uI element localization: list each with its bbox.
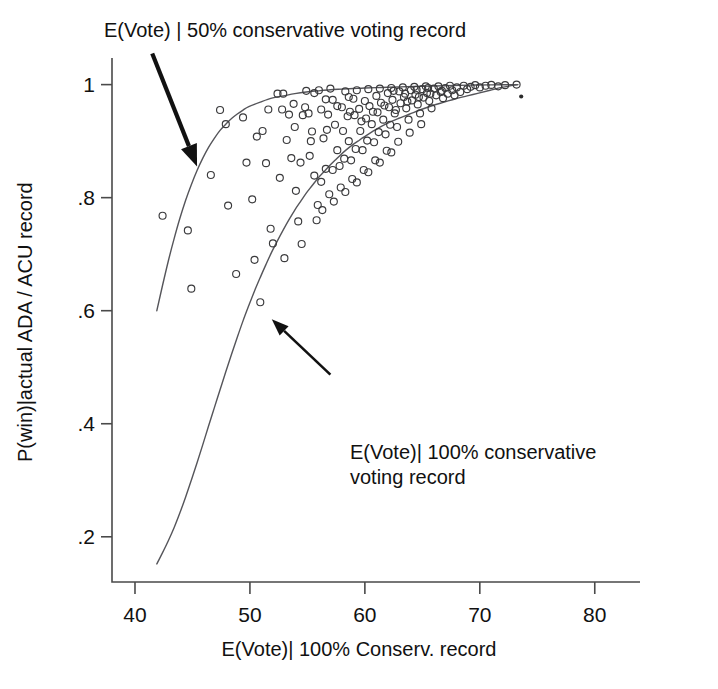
data-point-118 [326, 191, 333, 198]
data-point-1 [184, 227, 191, 234]
data-point-7 [233, 270, 240, 277]
data-point-24 [297, 159, 304, 166]
data-point-77 [405, 116, 412, 123]
x-tick-label-0: 40 [105, 604, 165, 625]
data-point-130 [342, 189, 349, 196]
data-point-136 [375, 129, 382, 136]
x-axis-title: E(Vote)| 100% Conserv. record [0, 638, 718, 661]
fitted-curves-group [157, 85, 518, 564]
data-point-83 [417, 110, 424, 117]
scatter-plot-canvas [0, 0, 718, 689]
data-point-43 [340, 127, 347, 134]
data-point-0 [159, 212, 166, 219]
data-point-47 [348, 157, 355, 164]
data-point-123 [383, 147, 390, 154]
data-points-group [159, 81, 523, 306]
data-point-146 [279, 106, 286, 113]
data-point-113 [298, 241, 305, 248]
data-point-33 [318, 106, 325, 113]
data-point-117 [276, 174, 283, 181]
data-point-112 [281, 255, 288, 262]
curve-0 [157, 85, 518, 311]
data-point-29 [309, 128, 316, 135]
data-point-12 [259, 127, 266, 134]
data-point-138 [352, 146, 359, 153]
data-point-129 [330, 198, 337, 205]
data-point-18 [283, 137, 290, 144]
data-point-26 [303, 87, 310, 94]
y-tick-label-3: .8 [77, 187, 95, 208]
data-point-10 [251, 256, 258, 263]
y-tick-label-4: 1 [83, 74, 95, 95]
upper-curve-annotation: E(Vote) | 50% conservative voting record [104, 18, 466, 43]
data-point-141 [318, 178, 325, 185]
y-axis-title: P(win)|actual ADA / ACU record [14, 182, 37, 462]
axis-lines [112, 58, 640, 582]
data-point-52 [357, 127, 364, 134]
data-point-62 [376, 85, 383, 92]
data-point-88 [426, 98, 433, 105]
data-point-115 [253, 133, 260, 140]
data-point-128 [319, 207, 326, 214]
data-point-156 [334, 103, 341, 110]
upper-annotation-arrow-shaft [152, 54, 189, 147]
data-point-145 [290, 100, 297, 107]
curve-1 [157, 85, 518, 564]
data-point-dot-0 [519, 94, 523, 98]
data-point-135 [364, 137, 371, 144]
data-point-65 [382, 131, 389, 138]
data-point-127 [418, 121, 425, 128]
data-point-30 [311, 172, 318, 179]
data-point-142 [307, 138, 314, 145]
data-point-22 [292, 187, 299, 194]
y-tick-label-1: .4 [77, 413, 95, 434]
data-point-69 [389, 96, 396, 103]
data-point-143 [323, 126, 330, 133]
data-point-41 [336, 163, 343, 170]
data-point-31 [313, 217, 320, 224]
lower-curve-annotation: E(Vote)| 100% conservative voting record [350, 440, 596, 490]
data-point-51 [356, 105, 363, 112]
data-point-8 [240, 114, 247, 121]
data-point-71 [394, 124, 401, 131]
data-point-140 [329, 166, 336, 173]
data-point-76 [403, 105, 410, 112]
data-point-116 [243, 159, 250, 166]
data-point-37 [327, 85, 334, 92]
data-point-11 [257, 299, 264, 306]
data-point-60 [373, 92, 380, 99]
data-point-64 [380, 116, 387, 123]
data-point-42 [338, 104, 345, 111]
data-point-157 [322, 96, 329, 103]
data-point-19 [286, 111, 293, 118]
data-point-82 [414, 101, 421, 108]
data-point-125 [395, 138, 402, 145]
data-point-38 [329, 96, 336, 103]
data-point-114 [265, 106, 272, 113]
data-point-34 [320, 135, 327, 142]
data-point-139 [341, 155, 348, 162]
chart-figure: .2.4.6.814050607080 P(win)|actual ADA / … [0, 0, 718, 689]
data-point-28 [306, 152, 313, 159]
x-tick-label-3: 70 [450, 604, 510, 625]
data-point-40 [334, 147, 341, 154]
data-point-46 [345, 138, 352, 145]
x-tick-label-2: 60 [335, 604, 395, 625]
data-point-23 [295, 218, 302, 225]
lower-annotation-arrow-shaft [284, 331, 330, 375]
data-point-59 [371, 139, 378, 146]
data-point-36 [325, 111, 332, 118]
y-tick-label-2: .6 [77, 300, 95, 321]
data-point-126 [406, 129, 413, 136]
data-point-6 [225, 202, 232, 209]
data-point-158 [345, 94, 352, 101]
data-point-48 [350, 95, 357, 102]
data-point-58 [368, 121, 375, 128]
data-point-53 [359, 147, 366, 154]
data-point-144 [302, 104, 309, 111]
data-point-2 [188, 285, 195, 292]
x-tick-label-1: 50 [220, 604, 280, 625]
data-point-14 [267, 225, 274, 232]
data-point-9 [249, 196, 256, 203]
data-point-3 [207, 172, 214, 179]
